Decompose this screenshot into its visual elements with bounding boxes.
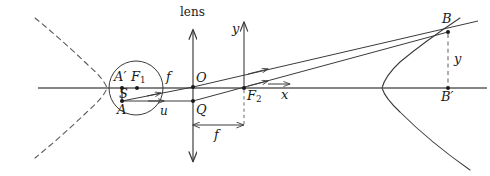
- focus-right-subscript: 2: [256, 94, 262, 104]
- refracted-ray-from-origin-arrow: [248, 69, 268, 74]
- origin-label: O: [196, 71, 207, 84]
- y-axis-label: y: [232, 22, 239, 35]
- dot-point-q: [191, 99, 195, 103]
- image-foot-label: B′: [441, 90, 454, 103]
- incident-ray-to-origin-arrow: [147, 93, 161, 96]
- focus-left-subscript: 1: [140, 75, 146, 85]
- image-top-label: B: [442, 12, 452, 25]
- object-top-label: A′: [114, 70, 126, 83]
- focus-right-letter: F: [247, 88, 256, 103]
- dot-image-point: [446, 30, 450, 34]
- diagram-canvas: [0, 0, 490, 176]
- image-height-label: y: [454, 52, 461, 65]
- focal-length-lower-label: f: [214, 128, 219, 141]
- lens-label: lens: [180, 6, 205, 18]
- refracted-ray-through-focus-arrow: [248, 81, 268, 86]
- object-distance-label: u: [160, 105, 168, 117]
- dot-focus-right: [242, 86, 246, 90]
- focus-left-letter: F: [131, 69, 140, 84]
- object-top-letter: A: [114, 69, 123, 84]
- object-top-prime: ′: [123, 69, 126, 84]
- focus-right-label: F2: [247, 89, 262, 104]
- image-foot-prime: ′: [451, 89, 454, 104]
- source-label: S: [119, 87, 128, 100]
- refracted-ray-through-focus: [193, 32, 448, 101]
- dot-origin: [191, 85, 195, 89]
- image-foot-letter: B: [441, 89, 451, 104]
- object-bottom-label: A: [117, 103, 126, 116]
- dot-focus-left: [135, 86, 139, 90]
- x-axis-label: x: [281, 88, 288, 101]
- point-q-label: Q: [196, 103, 207, 116]
- focal-length-upper-label: f: [166, 70, 171, 83]
- optics-ray-diagram: lens y x O Q F1 F2 A′ A S B B′ f f u y: [0, 0, 490, 176]
- right-solid-parabola: [382, 18, 470, 170]
- focus-left-label: F1: [131, 70, 146, 85]
